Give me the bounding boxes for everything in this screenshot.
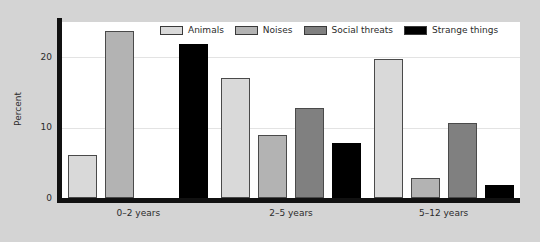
bar xyxy=(485,185,514,198)
x-axis-spine xyxy=(57,198,520,203)
bar xyxy=(332,143,361,198)
bar xyxy=(258,135,287,198)
bars-layer xyxy=(62,22,520,198)
y-axis-title: Percent xyxy=(13,79,23,139)
x-axis-tick-labels: 0–2 years2–5 years5–12 years xyxy=(57,208,520,222)
bar xyxy=(448,123,477,198)
x-tick-label: 0–2 years xyxy=(117,208,161,218)
bar-chart-figure: 01020 Percent AnimalsNoisesSocial threat… xyxy=(0,0,540,242)
bar xyxy=(105,31,134,198)
y-tick-label: 20 xyxy=(6,53,52,62)
x-tick-label: 2–5 years xyxy=(269,208,313,218)
x-tick-label: 5–12 years xyxy=(419,208,468,218)
bar xyxy=(179,44,208,198)
bar xyxy=(68,155,97,198)
bar xyxy=(295,108,324,198)
bar xyxy=(221,78,250,198)
y-tick-label: 0 xyxy=(6,194,52,203)
bar xyxy=(374,59,403,198)
bar xyxy=(411,178,440,198)
